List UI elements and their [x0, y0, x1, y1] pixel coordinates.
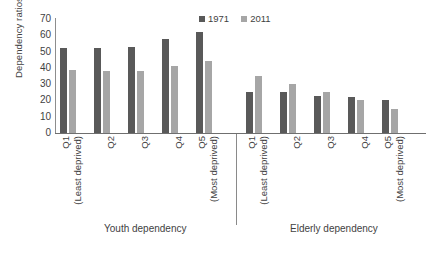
y-axis-title: Dependency ratios — [13, 0, 24, 100]
category-label-youth-q5: Q5(Most deprived) — [196, 136, 219, 222]
bar-elderly-q2-1971 — [280, 92, 287, 133]
bar-youth-q1-1971 — [60, 48, 67, 133]
bar-youth-q4-1971 — [162, 39, 169, 133]
category-label-elderly-q3: Q3 — [325, 136, 337, 222]
bar-youth-q2-2011 — [103, 71, 110, 133]
bar-youth-q4-2011 — [171, 66, 178, 133]
plot-area: 70 60 50 40 30 20 10 0 — [56, 19, 426, 133]
bar-youth-q5-2011 — [205, 61, 212, 133]
bar-youth-q1-2011 — [69, 70, 76, 134]
category-label-elderly-q1: Q1(Least deprived) — [246, 136, 269, 222]
bar-elderly-q5-2011 — [391, 109, 398, 133]
bar-elderly-q5-1971 — [382, 100, 389, 133]
group-title-elderly: Elderly dependency — [290, 223, 378, 234]
bar-youth-q3-1971 — [128, 47, 135, 133]
group-title-youth: Youth dependency — [104, 223, 187, 234]
bar-elderly-q3-2011 — [323, 92, 330, 133]
y-tick-10: 10 — [40, 112, 51, 122]
bar-elderly-q4-2011 — [357, 100, 364, 133]
y-tick-60: 60 — [40, 30, 51, 40]
category-label-elderly-q4: Q4 — [359, 136, 371, 222]
y-tick-20: 20 — [40, 95, 51, 105]
category-label-youth-q4: Q4 — [173, 136, 185, 222]
bar-elderly-q4-1971 — [348, 97, 355, 133]
y-tick-30: 30 — [40, 79, 51, 89]
bar-youth-q5-1971 — [196, 32, 203, 133]
y-tick-40: 40 — [40, 63, 51, 73]
y-tick-50: 50 — [40, 47, 51, 57]
category-label-elderly-q5: Q5(Most deprived) — [382, 136, 405, 222]
category-label-youth-q3: Q3 — [139, 136, 151, 222]
category-label-youth-q1: Q1(Least deprived) — [60, 136, 83, 222]
y-tick-0: 0 — [45, 128, 51, 138]
bar-youth-q3-2011 — [137, 71, 144, 133]
dependency-ratio-bar-chart: Dependency ratios 1971 2011 70 60 50 40 … — [0, 0, 442, 258]
bar-elderly-q1-2011 — [255, 76, 262, 133]
bar-elderly-q3-1971 — [314, 96, 321, 133]
category-label-youth-q2: Q2 — [105, 136, 117, 222]
y-tick-70: 70 — [40, 14, 51, 24]
bar-elderly-q2-2011 — [289, 84, 296, 133]
category-labels: Q1(Least deprived)Q2Q3Q4Q5(Most deprived… — [56, 134, 426, 214]
bar-elderly-q1-1971 — [246, 92, 253, 133]
category-label-elderly-q2: Q2 — [291, 136, 303, 222]
bar-youth-q2-1971 — [94, 48, 101, 133]
